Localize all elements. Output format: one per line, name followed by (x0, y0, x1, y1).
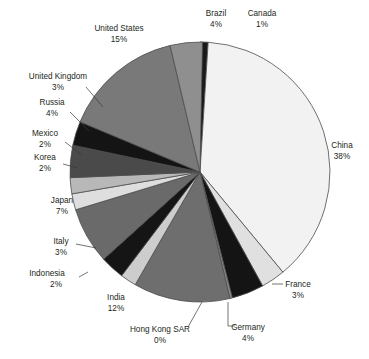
pie-value-germany: 4% (242, 334, 254, 343)
pie-value-mexico: 2% (39, 140, 51, 149)
pie-value-hong-kong-sar: 0% (154, 336, 166, 345)
pie-value-japan: 7% (56, 207, 68, 216)
pie-label-united-kingdom: United Kingdom (29, 72, 87, 81)
pie-label-canada: Canada (248, 9, 277, 18)
leader-line-indonesia (79, 272, 88, 277)
pie-slices-group (70, 42, 330, 302)
pie-value-india: 12% (108, 304, 124, 313)
pie-label-france: France (285, 280, 311, 289)
pie-label-brazil: Brazil (206, 9, 227, 18)
pie-value-china: 38% (334, 152, 350, 161)
pie-label-hong-kong-sar: Hong Kong SAR (130, 325, 190, 334)
pie-label-japan: Japan (51, 196, 74, 205)
pie-chart-svg: Canada1%China38%France3%Germany4%Hong Ko… (0, 0, 369, 359)
pie-value-korea: 2% (39, 164, 51, 173)
pie-label-germany: Germany (231, 323, 266, 332)
pie-value-italy: 3% (55, 248, 67, 257)
pie-label-italy: Italy (53, 237, 69, 246)
pie-label-mexico: Mexico (32, 129, 58, 138)
pie-label-china: China (331, 141, 353, 150)
pie-chart-figure: Canada1%China38%France3%Germany4%Hong Ko… (0, 0, 369, 359)
pie-label-korea: Korea (34, 153, 56, 162)
pie-label-russia: Russia (39, 98, 64, 107)
pie-value-france: 3% (292, 291, 304, 300)
pie-label-indonesia: Indonesia (29, 269, 65, 278)
leader-line-hong-kong-sar (188, 302, 202, 327)
pie-value-brazil: 4% (210, 20, 222, 29)
pie-label-united-states: United States (94, 24, 143, 33)
pie-value-russia: 4% (46, 109, 58, 118)
pie-value-united-states: 15% (111, 35, 127, 44)
pie-value-canada: 1% (256, 20, 268, 29)
pie-value-indonesia: 2% (50, 280, 62, 289)
pie-label-india: India (107, 293, 125, 302)
pie-value-united-kingdom: 3% (52, 83, 64, 92)
